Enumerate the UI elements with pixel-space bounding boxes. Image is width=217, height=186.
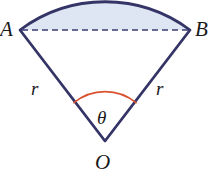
label-radius-left: r	[31, 79, 38, 98]
label-point-b: B	[195, 19, 208, 40]
label-point-o: O	[95, 152, 110, 173]
figure-canvas: A B r r θ O	[0, 0, 217, 186]
angle-arc-theta	[74, 92, 136, 103]
label-angle-theta: θ	[97, 108, 106, 127]
label-point-a: A	[0, 19, 13, 40]
label-radius-right: r	[156, 79, 163, 98]
